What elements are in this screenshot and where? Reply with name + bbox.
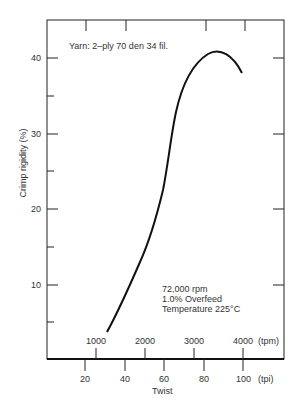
tpm-tick-label: 3000 xyxy=(184,336,204,346)
tpm-tick-label: 1000 xyxy=(86,336,106,346)
x-axis-label: Twist xyxy=(152,386,173,396)
tpi-tick-label: 20 xyxy=(80,374,90,384)
y-tick-label: 10 xyxy=(31,280,41,290)
x-ticks-top xyxy=(86,20,245,31)
chart-canvas xyxy=(0,0,301,410)
y-ticks-left xyxy=(47,58,58,322)
tpi-tick-label: 60 xyxy=(159,374,169,384)
tpm-unit-label: (tpm) xyxy=(258,336,279,346)
y-axis-label: Crimp rigidity (%) xyxy=(18,118,28,208)
y-tick-label: 20 xyxy=(31,204,41,214)
tpm-tick-label: 2000 xyxy=(135,336,155,346)
x-ticks-tpi xyxy=(85,359,243,371)
y-tick-label: 30 xyxy=(31,129,41,139)
x-ticks-tpm xyxy=(96,348,243,359)
tpi-unit-label: (tpi) xyxy=(258,374,274,384)
rpm-annotation: 72,000 rpm xyxy=(162,284,208,294)
tpi-tick-label: 80 xyxy=(199,374,209,384)
overfeed-annotation: 1.0% Overfeed xyxy=(162,294,222,304)
y-ticks-right xyxy=(273,58,284,285)
tpm-tick-label: 4000 xyxy=(233,336,253,346)
yarn-annotation: Yarn: 2–ply 70 den 34 fil. xyxy=(69,41,168,51)
temperature-annotation: Temperature 225°C xyxy=(162,304,240,314)
tpi-tick-label: 100 xyxy=(236,374,251,384)
tpi-tick-label: 40 xyxy=(120,374,130,384)
y-tick-label: 40 xyxy=(31,53,41,63)
